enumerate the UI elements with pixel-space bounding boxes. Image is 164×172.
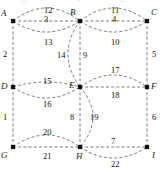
- graph-node-b: [78, 19, 82, 23]
- graph-edge-h-i-22: [80, 147, 147, 158]
- graph-node-h: [78, 145, 82, 149]
- node-label-g: G: [1, 151, 8, 160]
- node-label-f: F: [151, 82, 157, 91]
- edge-weight-label-22: 22: [111, 160, 120, 169]
- node-label-h: H: [76, 152, 83, 161]
- edge-weight-label-17: 17: [111, 66, 120, 75]
- edge-weight-label-6: 6: [152, 113, 156, 122]
- edge-weight-label-19: 19: [90, 113, 99, 122]
- edge-weight-label-5: 5: [152, 50, 156, 59]
- edge-weight-label-2: 2: [3, 50, 7, 59]
- edge-weight-label-1: 1: [3, 113, 7, 122]
- node-label-a: A: [1, 9, 7, 18]
- node-label-c: C: [151, 8, 157, 17]
- edge-weight-label-3: 3: [44, 15, 48, 24]
- graph-edges-layer: [0, 0, 164, 172]
- graph-node-c: [145, 19, 149, 23]
- edge-weight-label-16: 16: [43, 100, 52, 109]
- edge-weight-label-18: 18: [111, 91, 120, 100]
- edge-weight-label-21: 21: [43, 152, 52, 161]
- edge-weight-label-14: 14: [57, 51, 66, 60]
- graph-diagram-canvas: ABCDEFGHI 123131141025149151617181681920…: [0, 0, 164, 172]
- graph-node-d: [11, 85, 15, 89]
- edge-weight-label-9: 9: [83, 51, 87, 60]
- edge-weight-label-8: 8: [70, 113, 74, 122]
- graph-edge-b-e-14: [68, 21, 80, 87]
- node-label-d: D: [1, 82, 8, 91]
- node-label-i: I: [152, 151, 155, 160]
- graph-node-a: [11, 19, 15, 23]
- node-label-e: E: [69, 81, 75, 90]
- node-label-b: B: [70, 8, 76, 17]
- edge-weight-label-13: 13: [44, 38, 53, 47]
- edge-weight-label-4: 4: [112, 15, 116, 24]
- graph-node-i: [145, 145, 149, 149]
- edge-weight-label-20: 20: [43, 128, 52, 137]
- edge-weight-label-7: 7: [111, 137, 115, 146]
- edges-group: [13, 8, 147, 158]
- graph-edge-e-f-17: [80, 75, 147, 87]
- edge-weight-label-15: 15: [43, 77, 52, 86]
- graph-node-e: [78, 85, 82, 89]
- graph-node-f: [145, 85, 149, 89]
- edge-weight-label-10: 10: [111, 38, 120, 47]
- graph-node-g: [11, 145, 15, 149]
